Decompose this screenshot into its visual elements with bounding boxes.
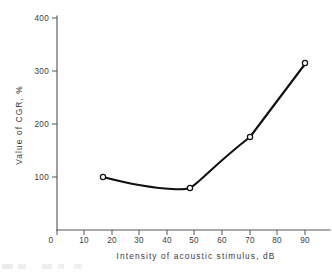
x-tick-label-10: 10 <box>79 236 89 245</box>
x-tick-label-50: 50 <box>189 236 199 245</box>
y-tick-label-400: 400 <box>34 14 49 23</box>
x-tick-label-40: 40 <box>162 236 172 245</box>
x-tick-label-90: 90 <box>300 236 310 245</box>
x-tick-label-70: 70 <box>245 236 255 245</box>
x-tick-label-30: 30 <box>134 236 144 245</box>
y-axis-title: Value of CGR, % <box>14 85 24 165</box>
data-point-marker <box>100 174 105 179</box>
y-tick-label-200: 200 <box>34 120 49 129</box>
data-point-marker <box>247 134 252 139</box>
line-chart-plot: 400 300 200 100 0 10 20 30 40 50 60 70 8… <box>0 0 332 274</box>
chart-figure: 400 300 200 100 0 10 20 30 40 50 60 70 8… <box>0 0 332 274</box>
x-tick-label-60: 60 <box>217 236 227 245</box>
x-tick-label-20: 20 <box>107 236 117 245</box>
y-tick-label-100: 100 <box>34 173 49 182</box>
x-tick-label-0: 0 <box>49 236 54 245</box>
data-point-marker <box>187 185 192 190</box>
cropped-caption-artifact <box>2 264 98 269</box>
data-curve <box>103 64 305 189</box>
y-tick-label-300: 300 <box>34 67 49 76</box>
data-point-marker <box>302 60 307 65</box>
x-axis-title: Intensity of acoustic stimulus, dB <box>117 251 276 261</box>
x-tick-label-80: 80 <box>272 236 282 245</box>
